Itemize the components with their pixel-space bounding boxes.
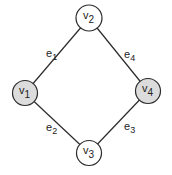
- node-v4: v4: [136, 79, 161, 104]
- edge-label-e1: e1: [46, 47, 57, 62]
- graph-diagram: e1e2e3e4 v1v2v3v4: [0, 0, 172, 175]
- edge-e2: [25, 93, 89, 153]
- edge-label-e3: e3: [124, 120, 135, 135]
- node-v1: v1: [13, 81, 38, 106]
- edge-e4: [89, 18, 148, 91]
- edge-label-e2: e2: [46, 121, 57, 136]
- node-v2: v2: [76, 5, 102, 31]
- node-v3: v3: [77, 141, 102, 166]
- edges: e1e2e3e4: [25, 18, 148, 153]
- edge-label-e4: e4: [124, 48, 135, 63]
- nodes: v1v2v3v4: [13, 5, 161, 166]
